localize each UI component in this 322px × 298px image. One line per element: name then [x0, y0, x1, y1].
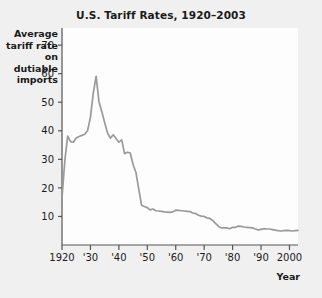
y-tick-label: 70 — [41, 40, 54, 51]
y-tick-labels: 10203040506070 — [41, 40, 54, 222]
x-tick-label: '70 — [196, 252, 211, 263]
x-tick-marks — [62, 245, 289, 250]
x-tick-label: '40 — [111, 252, 126, 263]
x-axis: 1920'30'40'50'60'70'80'902000 — [49, 245, 302, 263]
y-tick-label: 50 — [41, 97, 54, 108]
y-tick-label: 30 — [41, 154, 54, 165]
x-tick-label: '30 — [83, 252, 98, 263]
x-tick-label: '50 — [140, 252, 155, 263]
plot-area: 10203040506070 1920'30'40'50'60'70'80'90… — [0, 0, 322, 298]
x-tick-label: 2000 — [277, 252, 302, 263]
y-tick-label: 60 — [41, 68, 54, 79]
chart-figure: U.S. Tariff Rates, 1920–2003 Average tar… — [0, 0, 322, 298]
x-tick-label: '90 — [253, 252, 268, 263]
y-tick-label: 10 — [41, 211, 54, 222]
x-axis-title: Year — [0, 271, 300, 282]
y-tick-label: 40 — [41, 125, 54, 136]
y-axis: 10203040506070 — [41, 28, 62, 245]
x-tick-label: 1920 — [49, 252, 74, 263]
plot-background — [62, 28, 298, 245]
x-tick-labels: 1920'30'40'50'60'70'80'902000 — [49, 252, 302, 263]
x-tick-label: '80 — [225, 252, 240, 263]
x-tick-label: '60 — [168, 252, 183, 263]
y-tick-label: 20 — [41, 183, 54, 194]
